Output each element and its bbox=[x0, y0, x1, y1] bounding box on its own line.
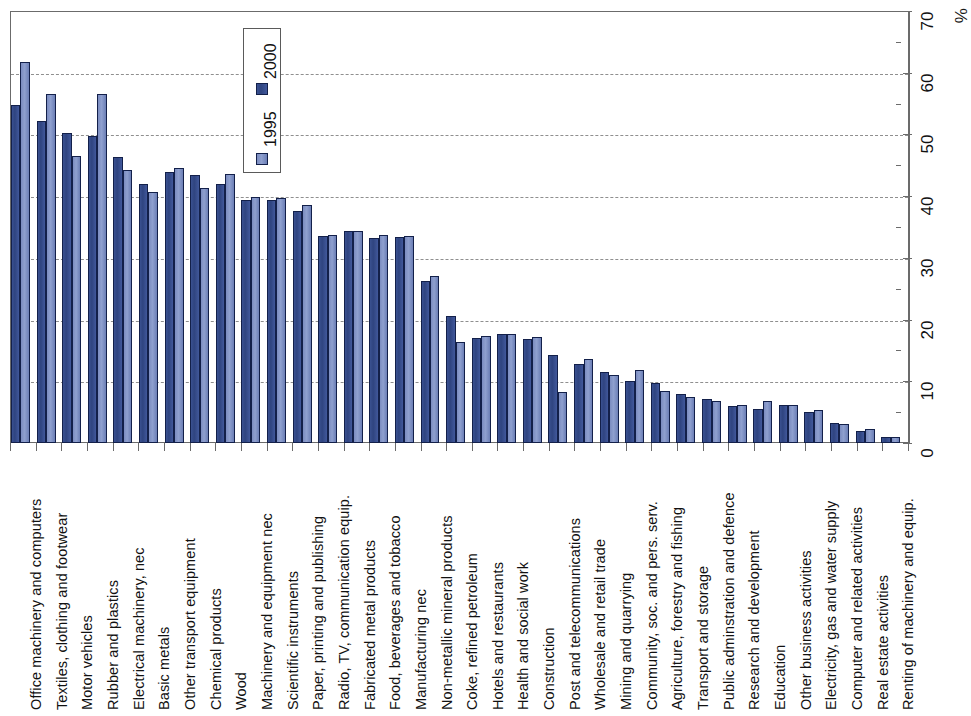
category-label: Machinery and equipment nec bbox=[260, 513, 275, 710]
bar-group bbox=[625, 11, 651, 443]
bar-group bbox=[523, 11, 549, 443]
category-label: Community, soc. and pers. serv. bbox=[645, 501, 660, 710]
bar-group bbox=[753, 11, 779, 443]
chart-legend: 2000 1995 bbox=[243, 28, 281, 173]
bar-2000 bbox=[584, 359, 593, 443]
category-tick bbox=[318, 443, 319, 451]
category-label: Rubber and plastics bbox=[106, 580, 121, 710]
category-label: Computer and related activities bbox=[850, 507, 865, 710]
category-tick bbox=[446, 443, 447, 451]
bar-1995 bbox=[293, 211, 302, 443]
bar-group bbox=[651, 11, 677, 443]
bar-1995 bbox=[216, 184, 225, 443]
category-label: Real estate activities bbox=[876, 575, 891, 710]
bar-2000 bbox=[148, 192, 157, 443]
value-tick-label-10: 10 bbox=[918, 382, 938, 401]
category-tick bbox=[138, 443, 139, 451]
category-tick bbox=[600, 443, 601, 451]
bar-2000 bbox=[712, 401, 721, 443]
value-tick-label-0: 0 bbox=[918, 448, 938, 457]
category-label: Chemical products bbox=[209, 588, 224, 710]
category-label: Research and development bbox=[747, 530, 762, 710]
category-tick bbox=[61, 443, 62, 451]
bar-1995 bbox=[651, 383, 660, 443]
category-label: Non-metallic mineral products bbox=[440, 515, 455, 710]
category-label: Paper, printing and publishing bbox=[311, 516, 326, 710]
legend-entry-2000: 2000 bbox=[244, 33, 282, 105]
bar-2000 bbox=[763, 401, 772, 443]
bar-group bbox=[472, 11, 498, 443]
bar-1995 bbox=[676, 394, 685, 443]
bar-1995 bbox=[62, 133, 71, 443]
category-tick bbox=[395, 443, 396, 451]
category-tick bbox=[190, 443, 191, 451]
category-tick bbox=[780, 443, 781, 451]
bar-1995 bbox=[728, 406, 737, 443]
category-tick bbox=[292, 443, 293, 451]
bar-2000 bbox=[430, 276, 439, 443]
category-label: Agriculture, forestry and fishing bbox=[670, 507, 685, 710]
legend-label-1995: 1995 bbox=[262, 111, 280, 147]
value-tick-label-60: 60 bbox=[918, 73, 938, 92]
category-label: Coke, refined petroleum bbox=[465, 553, 480, 710]
category-label: Other transport equipment bbox=[183, 538, 198, 710]
value-tick-50 bbox=[903, 134, 912, 135]
value-minor-tick-65 bbox=[896, 42, 901, 43]
category-tick bbox=[857, 443, 858, 451]
category-label: Wholesale and retail trade bbox=[593, 539, 608, 710]
bar-1995 bbox=[804, 412, 813, 443]
bar-2000 bbox=[46, 94, 55, 443]
value-tick-60 bbox=[903, 73, 912, 74]
category-tick bbox=[497, 443, 498, 451]
bar-1995 bbox=[395, 237, 404, 443]
category-label: Manufacturing nec bbox=[414, 589, 429, 710]
bar-group bbox=[728, 11, 754, 443]
bar-2000 bbox=[660, 391, 669, 443]
value-tick-30 bbox=[903, 258, 912, 259]
category-label: Basic metals bbox=[157, 627, 172, 710]
category-label: Transport and storage bbox=[696, 566, 711, 710]
category-label: Electricity, gas and water supply bbox=[824, 501, 839, 710]
bar-2000 bbox=[788, 405, 797, 443]
category-label: Public adminstration and defence bbox=[722, 492, 737, 710]
bar-group bbox=[11, 11, 37, 443]
bar-2000 bbox=[174, 168, 183, 443]
bar-1995 bbox=[139, 184, 148, 443]
bar-group bbox=[574, 11, 600, 443]
legend-entry-1995: 1995 bbox=[244, 101, 282, 173]
bar-2000 bbox=[225, 174, 234, 443]
category-label: Office machinery and computers bbox=[29, 499, 44, 710]
bar-series-container bbox=[10, 11, 908, 443]
bar-2000 bbox=[72, 156, 81, 443]
category-tick bbox=[805, 443, 806, 451]
value-tick-40 bbox=[903, 196, 912, 197]
category-label: Construction bbox=[542, 627, 557, 710]
category-tick bbox=[754, 443, 755, 451]
bar-2000 bbox=[353, 231, 362, 443]
category-tick bbox=[10, 443, 11, 451]
category-tick bbox=[215, 443, 216, 451]
bar-group bbox=[190, 11, 216, 443]
bar-2000 bbox=[865, 429, 874, 443]
category-label: Health and social work bbox=[516, 562, 531, 710]
bar-2000 bbox=[456, 342, 465, 443]
legend-label-2000: 2000 bbox=[262, 43, 280, 79]
value-tick-70 bbox=[903, 11, 912, 12]
bar-2000 bbox=[686, 397, 695, 443]
category-axis-labels: Office machinery and computersTextiles, … bbox=[10, 452, 908, 714]
category-tick bbox=[651, 443, 652, 451]
bar-1995 bbox=[856, 431, 865, 443]
value-tick-label-30: 30 bbox=[918, 258, 938, 277]
bar-2000 bbox=[609, 375, 618, 443]
bar-1995 bbox=[625, 381, 634, 443]
category-tick bbox=[36, 443, 37, 451]
value-tick-label-40: 40 bbox=[918, 197, 938, 216]
bar-group bbox=[497, 11, 523, 443]
bar-2000 bbox=[481, 336, 490, 443]
value-minor-tick-25 bbox=[896, 289, 901, 290]
bar-1995 bbox=[574, 364, 583, 443]
category-tick bbox=[164, 443, 165, 451]
bar-2000 bbox=[379, 235, 388, 443]
value-minor-tick-45 bbox=[896, 165, 901, 166]
bar-2000 bbox=[532, 337, 541, 443]
